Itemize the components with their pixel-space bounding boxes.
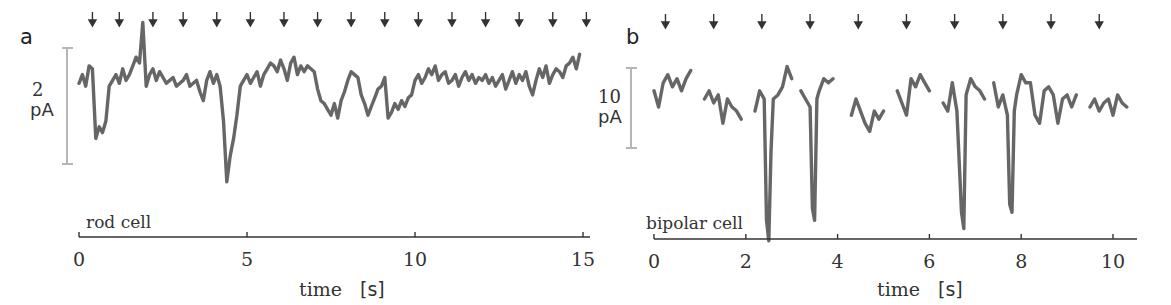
stimulus-arrows-b (662, 14, 1103, 28)
figure: a 2 pA 051015 rod cell time [s] b 10 pA (0, 0, 1171, 305)
down-arrow-icon (116, 12, 123, 26)
down-arrow-icon (348, 12, 355, 26)
cell-label-b: bipolar cell (646, 213, 743, 233)
down-arrow-icon (482, 12, 489, 26)
x-axis-a: 051015 (73, 232, 595, 270)
cell-label-a: rod cell (86, 212, 151, 232)
panel-letter-b: b (626, 25, 639, 49)
x-tick-label: 0 (648, 250, 660, 272)
down-arrow-icon (549, 12, 556, 26)
down-arrow-icon (903, 14, 910, 28)
x-tick-label: 15 (571, 248, 595, 270)
x-axis-b: 0246810 (648, 234, 1137, 272)
x-tick-label: 10 (1101, 250, 1125, 272)
down-arrow-icon (247, 12, 254, 26)
scale-unit-a: pA (30, 99, 54, 120)
scale-bar-a: 2 pA (30, 48, 73, 164)
stimulus-arrows-a (89, 12, 590, 26)
x-tick-label: 4 (832, 250, 844, 272)
x-axis-label-a: time (299, 278, 342, 300)
scale-value-b: 10 (598, 86, 621, 107)
down-arrow-icon (280, 12, 287, 26)
down-arrow-icon (180, 12, 187, 26)
x-tick-label: 8 (1015, 250, 1027, 272)
rod-cell-trace (79, 22, 580, 182)
down-arrow-icon (1096, 14, 1103, 28)
down-arrow-icon (807, 14, 814, 28)
x-tick-label: 2 (740, 250, 752, 272)
panel-letter-a: a (20, 25, 33, 49)
down-arrow-icon (710, 14, 717, 28)
down-arrow-icon (149, 12, 156, 26)
scale-bar-b: 10 pA (598, 68, 637, 148)
scale-unit-b: pA (598, 106, 622, 127)
down-arrow-icon (758, 14, 765, 28)
down-arrow-icon (951, 14, 958, 28)
down-arrow-icon (213, 12, 220, 26)
scale-value-a: 2 (32, 79, 43, 100)
down-arrow-icon (314, 12, 321, 26)
down-arrow-icon (999, 14, 1006, 28)
down-arrow-icon (662, 14, 669, 28)
x-tick-label: 10 (403, 248, 427, 270)
x-axis-label-b: time (877, 278, 920, 300)
down-arrow-icon (583, 12, 590, 26)
down-arrow-icon (855, 14, 862, 28)
panel-b: b 10 pA 0246810 bipolar cell time [s] (598, 14, 1137, 300)
down-arrow-icon (89, 12, 96, 26)
x-axis-unit-a: [s] (360, 278, 385, 300)
x-tick-label: 0 (73, 248, 85, 270)
down-arrow-icon (381, 12, 388, 26)
down-arrow-icon (448, 12, 455, 26)
down-arrow-icon (516, 12, 523, 26)
x-tick-label: 6 (923, 250, 935, 272)
x-axis-unit-b: [s] (938, 278, 963, 300)
panel-a: a 2 pA 051015 rod cell time [s] (20, 12, 595, 300)
x-tick-label: 5 (241, 248, 253, 270)
down-arrow-icon (415, 12, 422, 26)
down-arrow-icon (1048, 14, 1055, 28)
